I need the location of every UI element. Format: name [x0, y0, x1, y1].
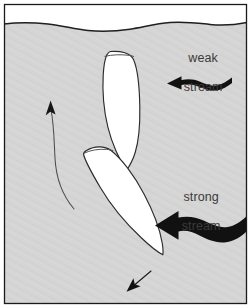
strong-stream-label-line2: stream	[182, 219, 221, 233]
stream-crossing-diagram: weak stream strong stream	[0, 0, 251, 308]
weak-stream-label-line2: stream	[184, 80, 223, 94]
weak-stream-label: weak stream	[152, 36, 240, 109]
weak-stream-label-line1: weak	[188, 51, 218, 65]
strong-stream-label: strong stream	[150, 175, 238, 248]
strong-stream-label-line1: strong	[183, 190, 218, 204]
